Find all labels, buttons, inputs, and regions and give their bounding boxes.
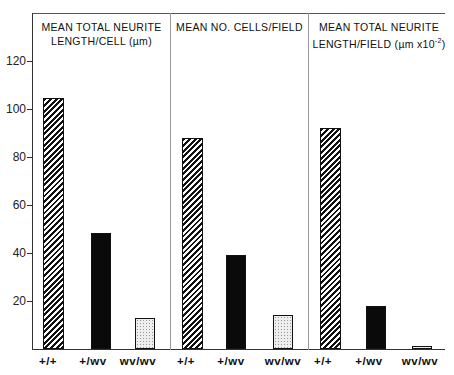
bar-panel1-wildtype bbox=[43, 98, 64, 349]
panel-3-title-sup: -2 bbox=[435, 37, 442, 44]
y-tick-label: 100 bbox=[0, 103, 26, 115]
y-tick bbox=[27, 109, 32, 110]
x-category-label: wv/wv bbox=[395, 355, 445, 368]
y-tick-label: 40 bbox=[0, 247, 26, 259]
bar-panel1-heterozygous bbox=[91, 233, 111, 349]
y-tick bbox=[27, 301, 32, 302]
panel-2-title: MEAN NO. CELLS/FIELD bbox=[171, 20, 308, 34]
x-category-label: +/+ bbox=[23, 355, 73, 368]
x-axis bbox=[32, 349, 445, 350]
y-axis bbox=[32, 13, 33, 350]
x-category-label: +/+ bbox=[161, 355, 211, 368]
y-tick bbox=[27, 61, 32, 62]
bar-panel3-homozygous bbox=[412, 346, 432, 349]
bar-panel2-wildtype bbox=[182, 138, 203, 349]
panel-divider-2 bbox=[308, 13, 309, 350]
panel-3-title-line2: LENGTH/FIELD (µm x10-2) bbox=[309, 34, 449, 51]
panel-3-title: MEAN TOTAL NEURITE LENGTH/FIELD (µm x10-… bbox=[309, 20, 449, 51]
panel-1-title-line2: LENGTH/CELL (µm) bbox=[33, 34, 170, 48]
panel-2-title-line1: MEAN NO. CELLS/FIELD bbox=[171, 20, 308, 34]
y-tick-label: 80 bbox=[0, 151, 26, 163]
panel-1-title-line1: MEAN TOTAL NEURITE bbox=[33, 20, 170, 34]
y-tick-label: 20 bbox=[0, 295, 26, 307]
y-tick bbox=[27, 205, 32, 206]
x-category-label: +/wv bbox=[206, 355, 256, 368]
panel-divider-1 bbox=[170, 13, 171, 350]
panel-1-title: MEAN TOTAL NEURITE LENGTH/CELL (µm) bbox=[33, 20, 170, 48]
panel-3-title-line2-text: LENGTH/FIELD (µm x10 bbox=[313, 38, 435, 50]
bar-panel2-heterozygous bbox=[226, 255, 246, 349]
bar-panel3-heterozygous bbox=[366, 306, 386, 349]
panel-3-title-line2-end: ) bbox=[442, 38, 446, 50]
x-category-label: wv/wv bbox=[113, 355, 163, 368]
x-category-label: +/wv bbox=[68, 355, 118, 368]
y-tick bbox=[27, 253, 32, 254]
y-tick-label: 60 bbox=[0, 199, 26, 211]
bar-panel1-homozygous bbox=[135, 318, 155, 349]
bar-panel3-wildtype bbox=[320, 128, 341, 349]
y-tick bbox=[27, 157, 32, 158]
panel-3-title-line1: MEAN TOTAL NEURITE bbox=[309, 20, 449, 34]
bar-panel2-homozygous bbox=[273, 315, 293, 349]
x-category-label: +/wv bbox=[344, 355, 394, 368]
x-category-label: +/+ bbox=[298, 355, 348, 368]
y-tick-label: 120 bbox=[0, 55, 26, 67]
